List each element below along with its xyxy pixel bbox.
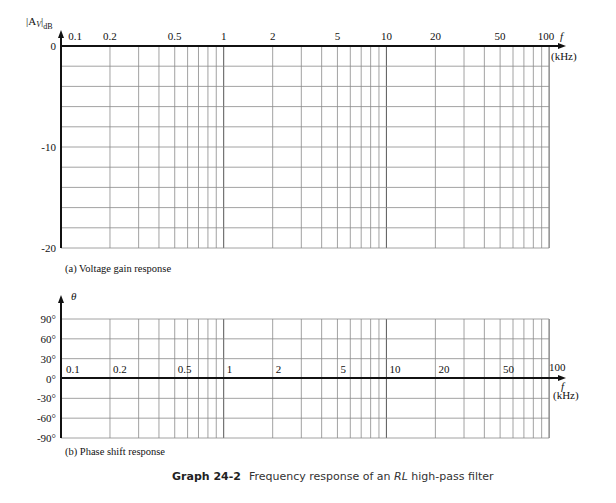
y-tick-label: -60°	[37, 412, 56, 424]
voltage-gain-chart: 0-10-200.10.20.5125102050100|AV|dBf(kHz)…	[26, 15, 577, 275]
frequency-axis-label: f	[560, 30, 565, 42]
y-tick-label: 30°	[41, 353, 56, 365]
x-tick-label: 0.5	[178, 363, 192, 375]
x-tick-label: 0.1	[66, 363, 80, 375]
frequency-unit-label: (kHz)	[551, 50, 577, 63]
x-tick-label: 2	[276, 363, 282, 375]
x-tick-label: 10	[381, 30, 393, 42]
x-tick-label: 0.5	[168, 30, 182, 42]
phase-y-axis-label: θ	[71, 290, 77, 302]
y-tick-label: -20	[41, 242, 56, 254]
x-tick-label: 1	[221, 30, 227, 42]
phase-shift-chart: 90°60°30°0°-30°-60°-90°0.10.20.512510205…	[37, 290, 579, 458]
x-tick-label: 1	[227, 363, 233, 375]
x-tick-label: 0.2	[113, 363, 127, 375]
figure-title-em: RL	[394, 470, 408, 483]
frequency-response-figure: 0-10-200.10.20.5125102050100|AV|dBf(kHz)…	[0, 0, 616, 503]
x-tick-label: 20	[438, 363, 450, 375]
x-tick-label: 5	[335, 30, 341, 42]
y-tick-label: -30°	[37, 392, 56, 404]
y-tick-label: 60°	[41, 333, 56, 345]
y-tick-label: 0°	[46, 373, 56, 385]
figure-number: Graph 24-2	[172, 470, 241, 483]
x-tick-label: 0.2	[103, 30, 117, 42]
x-tick-label: 2	[270, 30, 276, 42]
phase-chart-caption: (b) Phase shift response	[65, 446, 165, 458]
frequency-unit-label: (kHz)	[553, 389, 579, 402]
x-tick-label: 0.1	[68, 30, 82, 42]
y-tick-label: 90°	[41, 313, 56, 325]
gain-chart-caption: (a) Voltage gain response	[65, 263, 171, 275]
y-tick-label: -10	[41, 141, 56, 153]
x-tick-label: 50	[503, 363, 515, 375]
y-axis-arrow-icon	[58, 30, 64, 38]
x-tick-label: 5	[340, 363, 346, 375]
figure-title-pre: Frequency response of an	[249, 470, 394, 483]
x-axis-arrow-icon	[558, 43, 566, 49]
y-axis-arrow-icon	[58, 295, 64, 303]
gain-y-axis-label: |AV|dB	[26, 15, 53, 31]
y-tick-label: 0	[51, 40, 57, 52]
x-tick-label: 20	[430, 30, 442, 42]
figure-title-post: high-pass filter	[408, 470, 494, 483]
x-tick-label: 100	[538, 30, 555, 42]
figure-caption: Graph 24-2Frequency response of an RL hi…	[172, 470, 494, 483]
x-tick-label: 100	[549, 361, 566, 373]
x-tick-label: 50	[495, 30, 507, 42]
y-tick-label: -90°	[37, 432, 56, 444]
x-tick-label: 10	[389, 363, 401, 375]
